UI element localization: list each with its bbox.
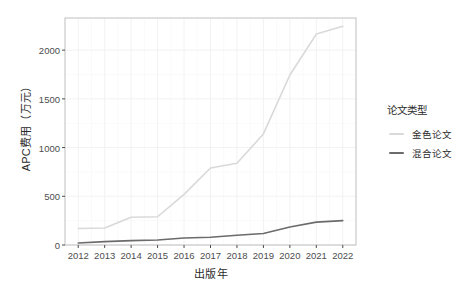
legend-line-icon bbox=[387, 146, 405, 160]
legend-item-2[interactable]: 混合论文 bbox=[387, 145, 473, 161]
legend-line-icon bbox=[387, 127, 405, 141]
legend-label: 金色论文 bbox=[412, 127, 452, 141]
chart-container: 0500100015002000 20122013201420152016201… bbox=[0, 0, 475, 285]
legend-swatch bbox=[389, 152, 404, 154]
legend-item-1[interactable]: 金色论文 bbox=[387, 126, 473, 142]
y-tick-label: 0 bbox=[18, 240, 60, 251]
legend: 论文类型 金色论文混合论文 bbox=[387, 102, 473, 164]
x-axis-tick-labels: 2012201320142015201620172018201920202021… bbox=[0, 250, 475, 266]
legend-swatch bbox=[389, 133, 404, 135]
legend-items: 金色论文混合论文 bbox=[387, 126, 473, 161]
y-axis-title: APC费用（万元） bbox=[17, 51, 33, 201]
x-axis-title: 出版年 bbox=[65, 265, 357, 281]
x-tick-label: 2022 bbox=[323, 250, 363, 261]
legend-label: 混合论文 bbox=[412, 146, 452, 160]
legend-title: 论文类型 bbox=[387, 102, 473, 117]
